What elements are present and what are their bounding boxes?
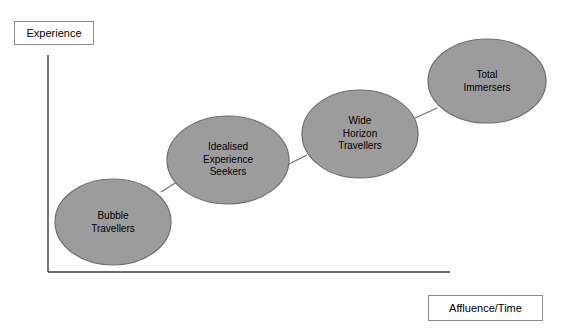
x-axis-label: Affluence/Time [428, 295, 543, 321]
bubbles-group [55, 39, 546, 265]
diagram-canvas: Bubble Travellers Idealised Experience S… [0, 0, 572, 329]
bubble-wide-horizon-travellers[interactable] [302, 90, 418, 178]
bubble-bubble-travellers[interactable] [55, 179, 171, 265]
y-axis-label: Experience [14, 21, 94, 45]
connector-wide-horizon-to-total-immersers [413, 108, 437, 119]
bubble-total-immersers[interactable] [428, 39, 546, 123]
bubble-idealised-experience-seekers[interactable] [167, 116, 289, 204]
diagram-graphic [0, 0, 572, 329]
